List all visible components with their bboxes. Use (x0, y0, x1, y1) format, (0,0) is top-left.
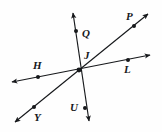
point-dot-H (36, 75, 40, 79)
point-dot-P (132, 24, 136, 28)
point-dot-L (126, 58, 130, 62)
point-label-P: P (126, 11, 133, 22)
point-dot-U (83, 106, 87, 110)
geometry-canvas (0, 0, 162, 132)
point-dot-Y (32, 105, 36, 109)
point-label-J: J (84, 50, 90, 61)
point-label-H: H (33, 60, 42, 71)
point-dot-J (77, 68, 82, 73)
point-dot-Q (74, 29, 78, 33)
point-label-U: U (70, 102, 78, 113)
point-label-Q: Q (82, 28, 90, 39)
point-label-Y: Y (34, 112, 41, 123)
geometry-diagram: Q P J H L U Y (0, 0, 162, 132)
point-label-L: L (124, 64, 131, 75)
